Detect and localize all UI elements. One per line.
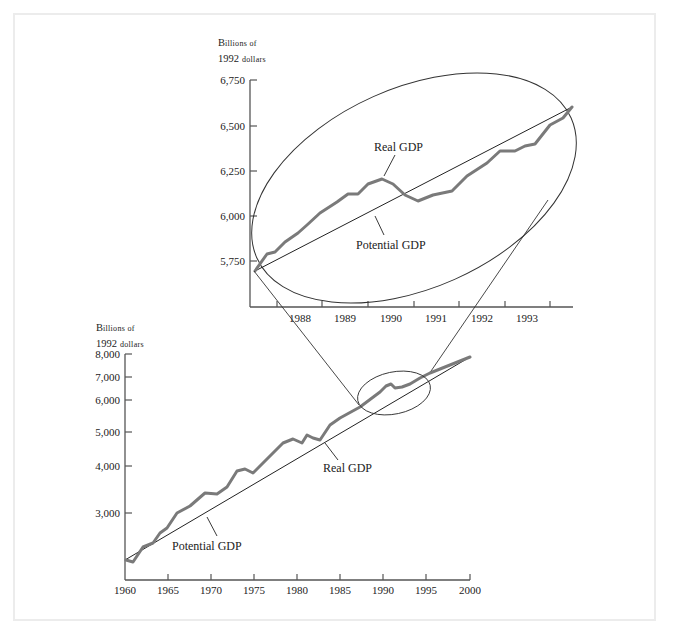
main-zoom-ellipse xyxy=(353,365,434,421)
inset-real-gdp-leader xyxy=(384,155,395,176)
main-y-tick-labels: 8,000 7,000 6,000 5,000 4,000 3,000 xyxy=(95,348,120,519)
main-y-tick-label: 6,000 xyxy=(95,394,120,406)
main-x-tick-label: 1985 xyxy=(329,584,352,596)
main-x-tick-labels: 1960 1965 1970 1975 1980 1985 1990 1995 … xyxy=(114,584,482,596)
main-y-tick-label: 5,000 xyxy=(95,426,120,438)
inset-y-tick-label: 5,750 xyxy=(220,255,245,267)
inset-y-tick-labels: 6,750 6,500 6,250 6,000 5,750 xyxy=(220,74,245,267)
inset-x-tick-label: 1990 xyxy=(380,312,403,324)
inset-x-ticks xyxy=(277,301,550,307)
main-x-ticks xyxy=(168,574,470,580)
main-real-gdp-label: Real GDP xyxy=(323,461,372,475)
main-real-gdp-leader xyxy=(325,443,338,460)
inset-unit-label-line2: 1992dollars xyxy=(218,53,266,64)
zoom-connector-right xyxy=(429,200,548,374)
inset-chart: Billions of 1992dollars 6,750 6,500 6,25… xyxy=(216,27,612,350)
main-x-tick-label: 2000 xyxy=(459,584,482,596)
inset-y-tick-label: 6,750 xyxy=(220,74,245,86)
inset-x-tick-label: 1993 xyxy=(516,312,539,324)
inset-x-tick-label: 1992 xyxy=(471,312,493,324)
main-y-tick-label: 8,000 xyxy=(95,348,120,360)
main-y-tick-label: 3,000 xyxy=(95,507,120,519)
zoom-connector-left xyxy=(254,271,359,405)
main-y-ticks xyxy=(125,354,132,513)
inset-y-tick-label: 6,000 xyxy=(220,210,245,222)
gdp-figure: Billions of 1992dollars 6,750 6,500 6,25… xyxy=(0,0,673,628)
main-x-tick-label: 1995 xyxy=(415,584,438,596)
inset-potential-gdp-leader xyxy=(375,216,384,235)
inset-x-tick-label: 1988 xyxy=(289,312,312,324)
main-x-tick-label: 1990 xyxy=(372,584,395,596)
main-x-tick-label: 1980 xyxy=(286,584,309,596)
inset-real-gdp-label: Real GDP xyxy=(374,140,423,154)
inset-y-ticks xyxy=(250,80,257,261)
inset-y-tick-label: 6,250 xyxy=(220,165,245,177)
main-y-tick-label: 4,000 xyxy=(95,460,120,472)
inset-x-tick-labels: 1988 1989 1990 1991 1992 1993 xyxy=(289,312,539,324)
inset-magnify-ellipse xyxy=(216,27,612,350)
inset-x-tick-label: 1989 xyxy=(334,312,357,324)
inset-x-tick-label: 1991 xyxy=(425,312,447,324)
main-x-tick-label: 1965 xyxy=(157,584,180,596)
inset-unit-label-line1: Billions of xyxy=(218,37,257,48)
main-x-tick-label: 1960 xyxy=(114,584,137,596)
main-y-tick-label: 7,000 xyxy=(95,371,120,383)
inset-potential-gdp-label: Potential GDP xyxy=(356,238,426,252)
main-unit-label-line1: Billions of xyxy=(96,322,135,333)
main-potential-gdp-label: Potential GDP xyxy=(172,539,242,553)
main-potential-gdp-line xyxy=(125,357,470,560)
main-x-tick-label: 1975 xyxy=(243,584,266,596)
inset-y-tick-label: 6,500 xyxy=(220,120,245,132)
main-potential-gdp-leader xyxy=(207,517,217,536)
main-chart: Billions of 1992dollars 8,000 7,000 6,00… xyxy=(95,322,481,596)
main-x-tick-label: 1970 xyxy=(200,584,223,596)
